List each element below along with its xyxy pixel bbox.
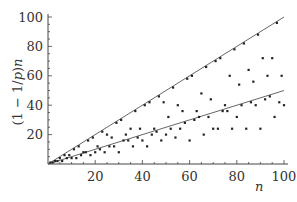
y-tick-label: 80 — [26, 39, 43, 54]
data-point — [203, 134, 205, 136]
data-point — [207, 116, 209, 118]
data-point — [255, 104, 257, 106]
data-point — [193, 119, 195, 121]
data-point — [158, 95, 160, 97]
data-point — [245, 128, 247, 130]
data-point — [54, 160, 56, 162]
data-point — [89, 154, 91, 156]
data-point — [127, 139, 129, 141]
data-point — [238, 84, 240, 86]
data-point — [165, 134, 167, 136]
data-point — [82, 151, 84, 153]
scatter-chart: 2040608010020406080100 n (1 − 1/p)n — [0, 0, 297, 202]
data-point — [236, 116, 238, 118]
data-point — [68, 154, 70, 156]
data-point — [196, 110, 198, 112]
data-point — [170, 128, 172, 130]
data-point — [224, 104, 226, 106]
data-point — [248, 69, 250, 71]
y-axis-title-part1: (1 − 1/ — [10, 80, 25, 126]
data-point — [222, 110, 224, 112]
data-point — [144, 104, 146, 106]
data-point — [262, 57, 264, 59]
data-point — [71, 157, 73, 159]
data-point — [94, 151, 96, 153]
data-point — [172, 86, 174, 88]
plot-points — [49, 22, 285, 164]
data-point — [59, 157, 61, 159]
data-point — [191, 75, 193, 77]
data-point — [205, 66, 207, 68]
data-point — [212, 128, 214, 130]
y-axis-title-n: n — [10, 59, 25, 67]
x-tick-label: 40 — [134, 169, 151, 184]
data-point — [160, 139, 162, 141]
data-point — [66, 157, 68, 159]
x-tick-label: 20 — [87, 169, 104, 184]
data-point — [163, 101, 165, 103]
data-point — [198, 116, 200, 118]
data-point — [96, 145, 98, 147]
data-point — [115, 122, 117, 124]
data-point — [271, 57, 273, 59]
x-tick-label: 60 — [181, 169, 198, 184]
x-axis-title: n — [255, 179, 263, 194]
data-point — [92, 136, 94, 138]
data-point — [273, 116, 275, 118]
data-point — [132, 145, 134, 147]
data-point — [141, 139, 143, 141]
data-point — [269, 95, 271, 97]
data-point — [130, 128, 132, 130]
data-point — [99, 148, 101, 150]
data-point — [63, 154, 65, 156]
data-point — [281, 75, 283, 77]
data-point — [118, 151, 120, 153]
x-tick-label: 80 — [229, 169, 246, 184]
data-point — [137, 136, 139, 138]
x-tick-label: 100 — [272, 169, 297, 184]
data-point — [108, 145, 110, 147]
data-point — [106, 134, 108, 136]
data-point — [122, 139, 124, 141]
data-point — [181, 110, 183, 112]
y-axis-title: (1 − 1/p)n — [10, 59, 25, 126]
data-point — [200, 92, 202, 94]
data-point — [153, 128, 155, 130]
data-point — [167, 116, 169, 118]
data-point — [134, 110, 136, 112]
data-point — [85, 151, 87, 153]
y-tick-label: 40 — [26, 98, 43, 113]
data-point — [252, 81, 254, 83]
data-point — [257, 34, 259, 36]
data-point — [219, 57, 221, 59]
data-point — [155, 131, 157, 133]
data-point — [184, 122, 186, 124]
data-point — [179, 128, 181, 130]
plot-lines — [48, 17, 284, 164]
data-point — [226, 110, 228, 112]
data-point — [151, 134, 153, 136]
data-point — [174, 136, 176, 138]
data-point — [52, 161, 54, 163]
data-point — [177, 104, 179, 106]
data-point — [113, 145, 115, 147]
data-point — [250, 101, 252, 103]
y-tick-label: 60 — [26, 68, 43, 83]
data-point — [217, 128, 219, 130]
data-point — [120, 119, 122, 121]
data-point — [240, 104, 242, 106]
data-point — [276, 22, 278, 24]
data-point — [125, 134, 127, 136]
data-point — [111, 136, 113, 138]
data-point — [231, 128, 233, 130]
data-point — [75, 157, 77, 159]
data-point — [186, 78, 188, 80]
data-point — [49, 161, 51, 163]
data-point — [210, 98, 212, 100]
data-point — [56, 160, 58, 162]
data-point — [259, 128, 261, 130]
data-point — [101, 131, 103, 133]
data-point — [229, 75, 231, 77]
data-point — [80, 154, 82, 156]
data-point — [266, 75, 268, 77]
